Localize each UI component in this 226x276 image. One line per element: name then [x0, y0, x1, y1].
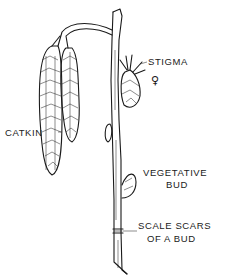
label-scale-scars-line2: OF A BUD	[147, 233, 196, 244]
female-symbol-icon: ♀	[151, 74, 159, 87]
label-catkin: CATKIN	[5, 127, 43, 138]
label-vegetative-bud-line2: BUD	[166, 179, 188, 190]
label-vegetative-bud-line1: VEGETATIVE	[143, 167, 207, 178]
botanical-illustration: STIGMA ♀ CATKIN VEGETATIVE BUD SCALE SCA…	[0, 0, 226, 276]
label-stigma: STIGMA	[148, 56, 188, 67]
label-scale-scars-line1: SCALE SCARS	[138, 220, 211, 231]
